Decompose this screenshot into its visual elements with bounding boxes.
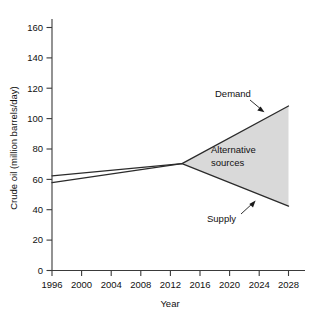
y-tick-label: 0 [38, 265, 43, 276]
y-tick-label: 60 [32, 174, 43, 185]
alternative-sources-label-line1: Alternative [211, 144, 256, 155]
x-tick-label: 2004 [101, 279, 122, 290]
y-tick-label: 120 [27, 83, 43, 94]
x-tick-label: 2024 [249, 279, 270, 290]
supply-annotation-label: Supply [207, 213, 236, 224]
x-tick-label: 2020 [219, 279, 240, 290]
y-tick-label: 100 [27, 113, 43, 124]
x-tick-label: 2028 [278, 279, 299, 290]
alternative-sources-label-line2: sources [211, 157, 245, 168]
y-tick-label: 140 [27, 52, 43, 63]
x-tick-label: 2012 [160, 279, 181, 290]
y-axis-title: Crude oil (million barrels/day) [8, 86, 19, 210]
x-axis-tick-labels: 1996 2000 2004 2008 2012 2016 2020 2024 … [41, 279, 299, 290]
x-tick-label: 2016 [189, 279, 210, 290]
y-tick-label: 80 [32, 143, 43, 154]
x-tick-label: 2008 [130, 279, 151, 290]
x-tick-label: 2000 [71, 279, 92, 290]
x-axis-title: Year [160, 298, 179, 309]
x-tick-label: 1996 [41, 279, 62, 290]
crude-oil-supply-demand-chart: 0 20 40 60 80 100 120 140 160 1996 2000 [0, 0, 318, 316]
y-tick-label: 20 [32, 234, 43, 245]
chart-figure: 0 20 40 60 80 100 120 140 160 1996 2000 [0, 0, 318, 316]
y-tick-label: 160 [27, 22, 43, 33]
demand-annotation-label: Demand [215, 88, 251, 99]
y-tick-label: 40 [32, 204, 43, 215]
